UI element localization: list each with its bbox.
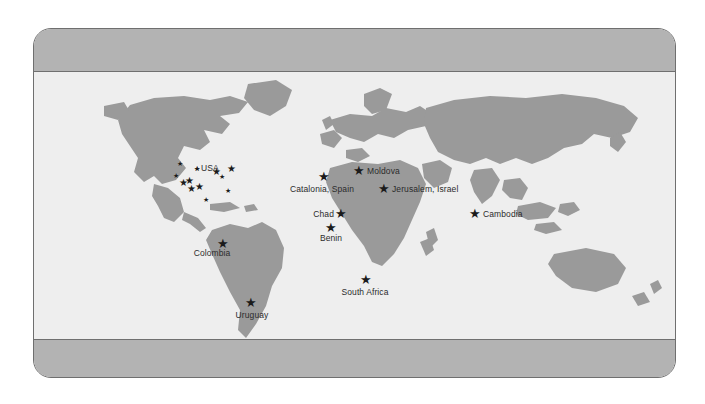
- star-marker-catalonia-spain[interactable]: ★: [318, 170, 330, 183]
- map-card: [33, 28, 676, 378]
- place-label-colombia: Colombia: [194, 249, 231, 258]
- world-map-landmasses: [34, 72, 675, 341]
- star-marker-moldova[interactable]: ★: [353, 164, 365, 177]
- star-marker-south-africa[interactable]: ★: [360, 273, 372, 286]
- star-marker[interactable]: ★: [219, 173, 225, 180]
- star-marker-jerusalem-israel[interactable]: ★: [378, 182, 390, 195]
- star-marker[interactable]: ★: [177, 160, 183, 167]
- star-marker-usa[interactable]: ★: [194, 165, 200, 172]
- place-label-jerusalem-israel: Jerusalem, Israel: [392, 185, 458, 194]
- star-marker-cambodia[interactable]: ★: [469, 207, 481, 220]
- place-label-moldova: Moldova: [367, 167, 400, 176]
- place-label-cambodia: Cambodia: [483, 210, 523, 219]
- star-marker-uruguay[interactable]: ★: [245, 296, 257, 309]
- place-label-benin: Benin: [320, 234, 342, 243]
- place-label-chad: Chad: [313, 210, 334, 219]
- star-marker-benin[interactable]: ★: [325, 221, 337, 234]
- figure-stage: ★★★★★★★★★★★★★USA★Colombia★Uruguay★Catalo…: [0, 0, 705, 404]
- card-footer-band: [34, 339, 675, 377]
- world-map: [34, 72, 675, 341]
- star-marker[interactable]: ★: [203, 196, 209, 203]
- place-label-catalonia-spain: Catalonia, Spain: [290, 185, 354, 194]
- star-marker[interactable]: ★: [227, 164, 236, 174]
- star-marker[interactable]: ★: [225, 187, 231, 194]
- place-label-south-africa: South Africa: [341, 288, 388, 297]
- place-label-usa: USA: [201, 164, 219, 173]
- card-header-band: [34, 29, 675, 72]
- place-label-uruguay: Uruguay: [236, 311, 269, 320]
- star-marker[interactable]: ★: [195, 182, 204, 192]
- star-marker-chad[interactable]: ★: [335, 207, 347, 220]
